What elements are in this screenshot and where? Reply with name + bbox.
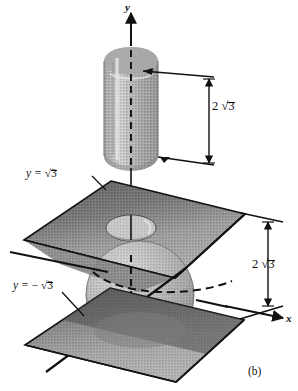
upper-dimension-radical: √3 — [221, 100, 234, 113]
upper-plane-radical: √3 — [45, 168, 57, 180]
upper-dimension-label: 2 √3 — [212, 100, 235, 113]
lower-plane-label: y = − √3 — [13, 280, 53, 292]
upper-plane-front-edge — [24, 181, 245, 292]
upper-dimension-coefficient: 2 — [212, 99, 218, 113]
lower-dimension-radical: √3 — [261, 258, 274, 271]
lower-dimension-coefficient: 2 — [252, 257, 258, 271]
lower-plane-radical: √3 — [41, 280, 53, 292]
upper-plane-label-leader — [92, 176, 106, 190]
x-axis-label: x — [286, 313, 292, 324]
figure-caption: (b) — [248, 366, 261, 378]
lower-plane-label-prefix: y = — [13, 279, 32, 291]
upper-plane-label: y = √3 — [26, 168, 57, 180]
lower-plane-label-sign: − — [32, 279, 41, 291]
sphere-shadow-on-lower-plane — [94, 312, 186, 348]
figure-graphic — [0, 0, 298, 391]
lower-dimension-label: 2 √3 — [252, 258, 275, 271]
upper-plane-label-prefix: y = — [26, 167, 45, 179]
y-axis-label: y — [125, 2, 130, 13]
figure-canvas: y x y = √3 y = − √3 2 √3 2 √3 (b) — [0, 0, 298, 391]
